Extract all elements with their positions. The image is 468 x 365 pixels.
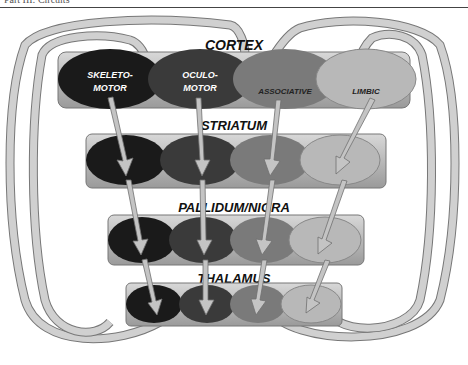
cortex-limbic-node: [316, 49, 416, 109]
layer-label-pallidum-nigra: PALLIDUM/NIGRA: [178, 200, 290, 215]
layer-striatum: STRIATUM: [86, 118, 386, 188]
loop-label-oculomotor-1: OCULO-: [182, 70, 218, 80]
loop-label-limbic: LIMBIC: [352, 87, 380, 96]
loop-label-oculomotor-2: MOTOR: [183, 83, 217, 93]
loop-label-skeletomotor-1: SKELETO-: [87, 70, 132, 80]
loop-label-associative: ASSOCIATIVE: [257, 87, 312, 96]
layer-label-striatum: STRIATUM: [201, 118, 268, 133]
basal-ganglia-loop-diagram: CORTEX SKELETO- MOTOR OCULO- MOTOR ASSOC…: [0, 0, 468, 365]
loop-label-skeletomotor-2: MOTOR: [93, 83, 127, 93]
